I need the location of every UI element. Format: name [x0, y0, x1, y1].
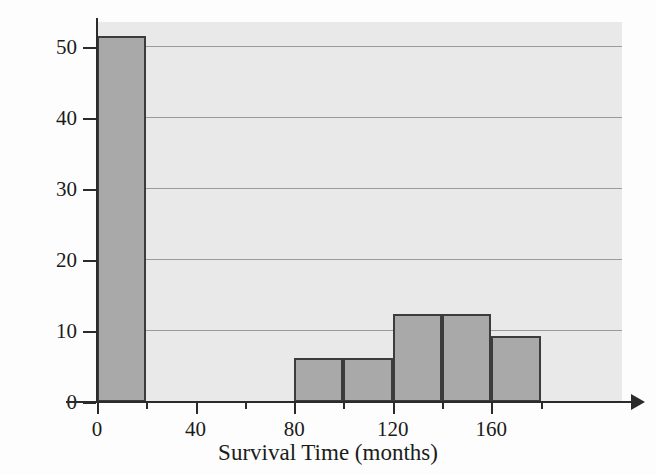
y-axis-tick: 10 [83, 331, 96, 333]
y-axis-tick-label: 30 [56, 177, 77, 202]
x-axis-tick [393, 401, 395, 414]
y-axis: 01020304050 [96, 18, 98, 403]
histogram-bar [343, 358, 392, 402]
x-axis: 04080120160 [66, 401, 635, 403]
x-axis-tick [541, 401, 543, 409]
y-axis-tick-label: 10 [56, 319, 77, 344]
y-axis-tick: 40 [83, 118, 96, 120]
x-axis-tick [146, 401, 148, 409]
x-axis-tick-label: 160 [476, 417, 508, 442]
histogram-bar [393, 314, 442, 402]
plot-area [97, 22, 622, 402]
x-axis-tick [294, 401, 296, 414]
y-axis-tick-label: 50 [56, 35, 77, 60]
x-axis-tick [196, 401, 198, 414]
x-axis-title: Survival Time (months) [0, 440, 656, 466]
histogram-bar [442, 314, 491, 402]
histogram-bar [294, 358, 343, 402]
histogram-bar [491, 336, 540, 402]
gridline [97, 46, 622, 47]
x-axis-tick [97, 401, 99, 414]
x-axis-tick [245, 401, 247, 409]
x-axis-tick-label: 40 [185, 417, 206, 442]
y-axis-tick: 20 [83, 260, 96, 262]
histogram-figure: 01020304050 04080120160 Percent Survival… [0, 0, 656, 475]
y-axis-tick: 50 [83, 47, 96, 49]
y-axis-tick-label: 20 [56, 248, 77, 273]
y-axis-tick: 30 [83, 189, 96, 191]
x-axis-tick-label: 80 [284, 417, 305, 442]
x-axis-tick-label: 0 [92, 417, 103, 442]
x-axis-tick-label: 120 [377, 417, 409, 442]
x-axis-tick [491, 401, 493, 414]
gridline [97, 330, 622, 331]
x-axis-arrow-icon [631, 394, 645, 410]
x-axis-tick [442, 401, 444, 409]
gridline [97, 188, 622, 189]
y-axis-tick-label: 40 [56, 106, 77, 131]
gridline [97, 117, 622, 118]
x-axis-tick [343, 401, 345, 409]
histogram-bar [97, 36, 146, 402]
gridline [97, 259, 622, 260]
